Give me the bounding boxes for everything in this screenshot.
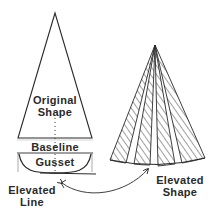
elevated-shape-label-line2: Shape bbox=[150, 186, 210, 198]
diagram-canvas: Original Shape Baseline Gusset Elevated … bbox=[0, 0, 216, 216]
elevated-line bbox=[40, 173, 96, 174]
elevated-line-label-line2: Line bbox=[4, 196, 60, 208]
elevated-line-label-line1: Elevated bbox=[4, 184, 60, 196]
baseline-label: Baseline bbox=[25, 141, 85, 153]
elevated-shape-label-line1: Elevated bbox=[150, 174, 210, 186]
elevated-line-label: Elevated Line bbox=[4, 184, 60, 208]
elevated-shape bbox=[110, 45, 205, 166]
original-shape-label: Original Shape bbox=[30, 94, 80, 118]
original-shape-label-line1: Original bbox=[30, 94, 80, 106]
original-shape-label-line2: Shape bbox=[30, 106, 80, 118]
transform-arrow bbox=[62, 169, 148, 193]
gusset-label: Gusset bbox=[25, 156, 85, 168]
elevated-shape-label: Elevated Shape bbox=[150, 174, 210, 198]
